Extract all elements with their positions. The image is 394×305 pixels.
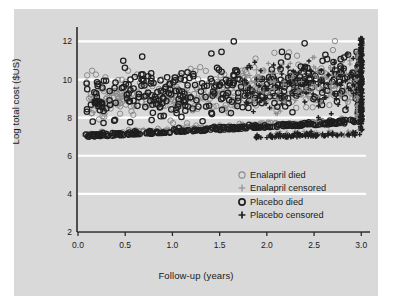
legend-item-label: Placebo died: [250, 197, 303, 207]
y-tick-label: 8: [50, 113, 72, 123]
legend-marker-circle-open-gray: [236, 169, 248, 181]
y-tick-label: 12: [50, 36, 72, 46]
legend-marker-plus-black: [236, 209, 248, 221]
legend-item[interactable]: Placebo censored: [236, 209, 366, 223]
y-tick-label: 4: [50, 189, 72, 199]
x-tick-label: 0.5: [110, 240, 140, 250]
x-tick-label: 0.0: [63, 240, 93, 250]
x-axis-label: Follow-up (years): [14, 270, 378, 281]
legend-item[interactable]: Enalapril censored: [236, 182, 366, 196]
x-tick-label: 3.0: [346, 240, 376, 250]
x-tick-label: 2.5: [299, 240, 329, 250]
y-tick-label: 10: [50, 75, 72, 85]
legend-item-label: Enalapril died: [250, 170, 306, 180]
x-tick-label: 1.0: [157, 240, 187, 250]
legend-item[interactable]: Enalapril died: [236, 168, 366, 182]
legend-marker-plus-gray: [236, 182, 248, 194]
y-tick-label: 2: [50, 227, 72, 237]
legend-item[interactable]: Placebo died: [236, 195, 366, 209]
x-tick-label: 2.0: [252, 240, 282, 250]
legend-marker-circle-open-black: [236, 196, 248, 208]
x-tick-label: 1.5: [205, 240, 235, 250]
figure: Log total cost ($US) Follow-up (years) 2…: [0, 0, 394, 305]
y-axis-label: Log total cost ($US): [10, 27, 21, 177]
chart-legend: Enalapril diedEnalapril censoredPlacebo …: [236, 168, 366, 222]
y-tick-label: 6: [50, 151, 72, 161]
legend-item-label: Enalapril censored: [250, 183, 326, 193]
legend-item-label: Placebo censored: [250, 210, 324, 220]
